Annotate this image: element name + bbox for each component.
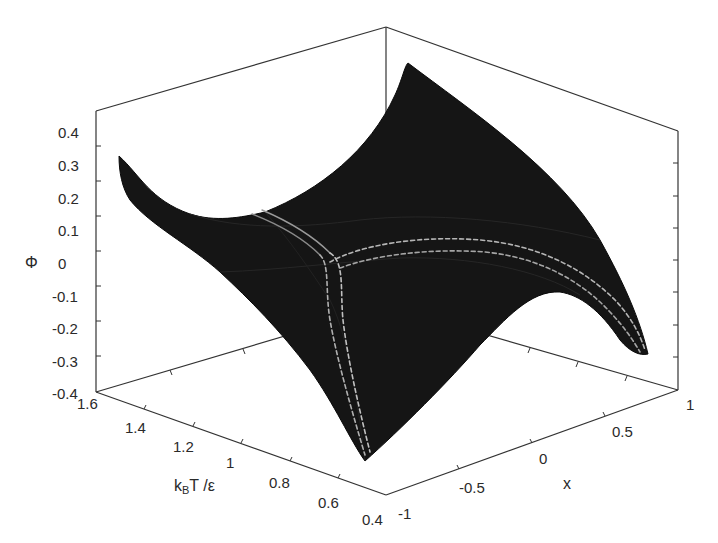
z-tick-0.3: 0.3: [58, 158, 79, 173]
z-tick-0: 0: [58, 256, 66, 271]
z-tick-0.1: 0.1: [58, 223, 79, 238]
t-axis-title-rest: T /ε: [189, 477, 215, 494]
z-tick-0.2: 0.2: [58, 191, 79, 206]
t-tick-0.8: 0.8: [269, 475, 290, 490]
x-tick-1: 1: [686, 397, 694, 412]
t-tick-0.4: 0.4: [362, 512, 383, 527]
z-tick-neg0.4: -0.4: [52, 386, 78, 401]
z-tick-neg0.3: -0.3: [52, 354, 78, 369]
surface-plot: [0, 0, 718, 543]
z-tick-neg0.1: -0.1: [52, 289, 78, 304]
z-axis-ticks-right: [673, 163, 678, 357]
z-tick-neg0.2: -0.2: [52, 321, 78, 336]
t-axis-title: kBT /ε: [174, 478, 215, 496]
t-tick-1.2: 1.2: [173, 439, 194, 454]
z-axis-title: Φ: [25, 255, 38, 271]
z-axis-ticks: [96, 146, 101, 356]
t-tick-1: 1: [226, 455, 234, 470]
t-tick-1.6: 1.6: [77, 396, 98, 411]
surface-mesh: [119, 63, 648, 461]
x-tick-neg0.5: -0.5: [459, 480, 485, 495]
t-tick-1.4: 1.4: [125, 420, 146, 435]
z-tick-0.4: 0.4: [58, 125, 79, 140]
x-tick-neg1: -1: [398, 506, 411, 521]
t-axis-title-main: k: [174, 477, 182, 494]
x-axis-ticks: [457, 412, 605, 469]
x-tick-0: 0: [539, 451, 547, 466]
x-axis-title: x: [563, 476, 571, 492]
x-tick-0.5: 0.5: [612, 424, 633, 439]
t-tick-0.6: 0.6: [318, 495, 339, 510]
